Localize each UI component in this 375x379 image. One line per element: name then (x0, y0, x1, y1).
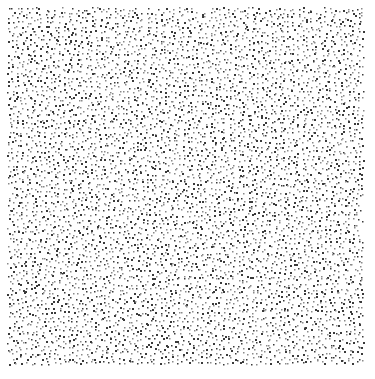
stipple-image (0, 0, 375, 379)
stipple-dot-field (0, 0, 375, 379)
